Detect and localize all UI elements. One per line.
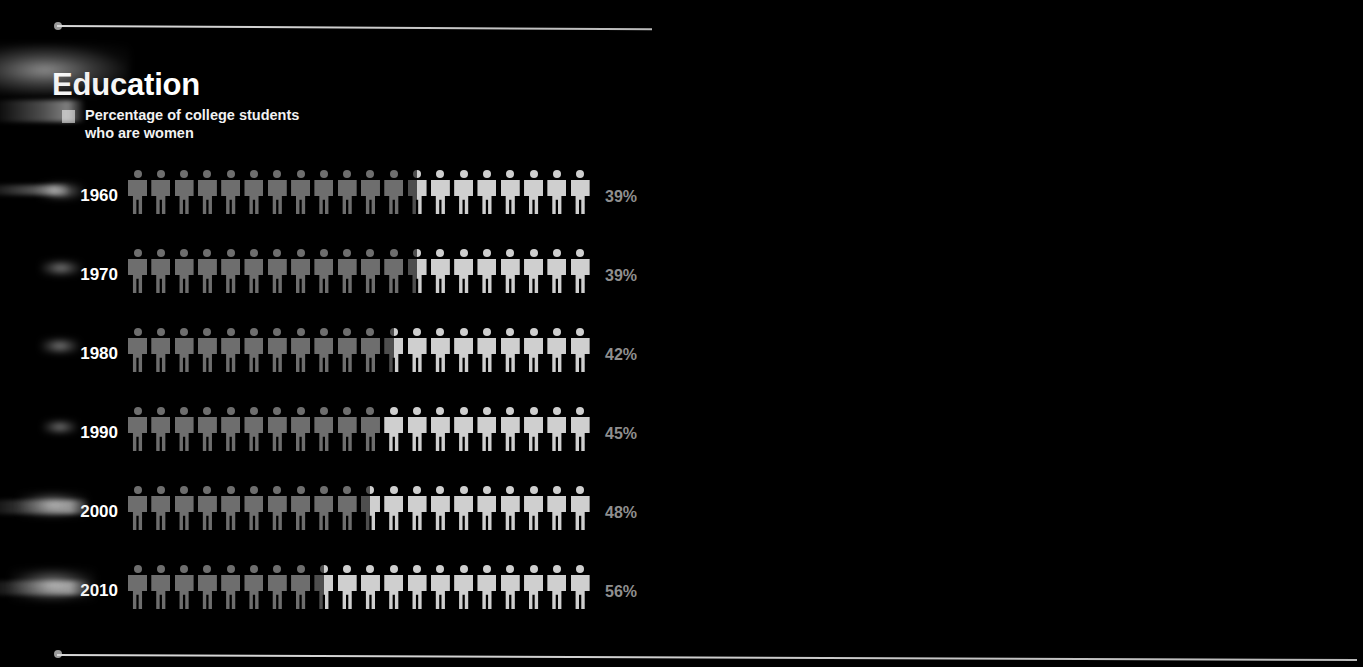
pictogram-person-icon xyxy=(524,407,543,451)
legend-label: Percentage of college students who are w… xyxy=(85,106,299,142)
pictogram-person-icon xyxy=(384,407,403,451)
person-head xyxy=(576,486,584,494)
pictogram-person-icon xyxy=(268,249,287,293)
person-head xyxy=(273,565,281,573)
person-head xyxy=(390,407,398,415)
pictogram-person-icon xyxy=(338,407,357,451)
person-body xyxy=(547,496,566,530)
person-body xyxy=(477,180,496,214)
pictogram-person-icon xyxy=(338,328,357,372)
person-head xyxy=(180,407,188,415)
pictogram-person-icon xyxy=(151,328,170,372)
pictogram-person-icon xyxy=(244,328,263,372)
pictogram-person-icon xyxy=(338,565,357,609)
person-head xyxy=(250,170,258,178)
pictogram-figure-group xyxy=(128,328,590,372)
legend-label-line1: Percentage of college students xyxy=(85,107,299,123)
education-section-title: Education xyxy=(52,67,200,103)
person-body xyxy=(198,259,217,293)
pictogram-person-icon xyxy=(361,407,380,451)
pictogram-person-icon xyxy=(501,249,520,293)
pictogram-person-icon xyxy=(244,565,263,609)
person-head xyxy=(460,170,468,178)
person-head xyxy=(576,170,584,178)
person-head xyxy=(320,565,328,573)
person-head xyxy=(506,407,514,415)
person-body xyxy=(454,496,473,530)
pictogram-person-icon xyxy=(477,170,496,214)
person-body xyxy=(571,417,590,451)
person-body xyxy=(338,338,357,372)
pictogram-person-icon xyxy=(314,407,333,451)
pictogram-person-icon xyxy=(524,328,543,372)
pictogram-person-icon xyxy=(384,328,403,372)
person-head xyxy=(413,486,421,494)
person-head xyxy=(436,486,444,494)
pictogram-person-icon xyxy=(408,328,427,372)
person-body xyxy=(151,338,170,372)
person-body xyxy=(268,496,287,530)
pictogram-person-icon xyxy=(454,486,473,530)
pictogram-person-icon xyxy=(268,565,287,609)
person-head xyxy=(320,486,328,494)
person-head xyxy=(413,328,421,336)
pictogram-person-icon xyxy=(291,249,310,293)
person-body xyxy=(547,259,566,293)
pictogram-person-icon xyxy=(547,249,566,293)
person-head xyxy=(157,328,165,336)
person-body xyxy=(571,575,590,609)
person-head xyxy=(320,328,328,336)
person-head xyxy=(157,407,165,415)
person-body xyxy=(571,338,590,372)
pictogram-person-icon xyxy=(128,565,147,609)
pictogram-person-icon xyxy=(175,407,194,451)
pictogram-person-icon xyxy=(501,170,520,214)
person-head xyxy=(460,407,468,415)
person-body xyxy=(128,338,147,372)
person-head xyxy=(366,486,374,494)
percentage-label: 56% xyxy=(605,583,637,601)
person-body xyxy=(291,496,310,530)
pictogram-person-icon xyxy=(431,565,450,609)
pictogram-person-icon xyxy=(547,486,566,530)
person-body xyxy=(151,259,170,293)
person-body xyxy=(431,417,450,451)
person-body xyxy=(151,496,170,530)
person-head xyxy=(553,486,561,494)
pictogram-person-icon xyxy=(477,328,496,372)
person-head xyxy=(134,249,142,257)
pictogram-person-icon xyxy=(268,328,287,372)
person-body xyxy=(338,496,357,530)
person-body xyxy=(128,417,147,451)
person-body xyxy=(175,575,194,609)
pictogram-person-icon xyxy=(291,486,310,530)
pictogram-person-icon xyxy=(268,407,287,451)
pictogram-person-icon xyxy=(454,565,473,609)
pictogram-person-icon xyxy=(221,486,240,530)
pictogram-person-icon xyxy=(384,170,403,214)
person-head xyxy=(506,565,514,573)
person-body xyxy=(175,338,194,372)
person-head xyxy=(530,249,538,257)
person-body xyxy=(151,180,170,214)
pictogram-person-icon xyxy=(128,486,147,530)
person-head xyxy=(436,249,444,257)
person-head xyxy=(343,407,351,415)
person-body xyxy=(221,417,240,451)
pictogram-person-icon xyxy=(384,565,403,609)
person-body xyxy=(454,338,473,372)
person-body xyxy=(244,259,263,293)
percentage-label: 45% xyxy=(605,425,637,443)
person-body xyxy=(524,180,543,214)
pictogram-person-icon xyxy=(151,486,170,530)
person-body xyxy=(477,259,496,293)
person-head xyxy=(390,486,398,494)
person-head xyxy=(134,170,142,178)
pictogram-person-icon xyxy=(477,249,496,293)
person-head xyxy=(227,407,235,415)
person-body xyxy=(291,417,310,451)
legend-label-line2: who are women xyxy=(85,125,194,141)
person-head xyxy=(180,249,188,257)
person-head xyxy=(413,249,421,257)
person-body xyxy=(501,259,520,293)
